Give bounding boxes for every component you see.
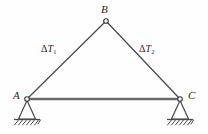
- support-a-ground-hatching: [15, 120, 41, 125]
- member-bc-right-diagonal: [107, 22, 180, 99]
- joint-c-circle: [178, 97, 183, 102]
- truss-diagram-svg: [0, 0, 208, 134]
- member-ab-left-diagonal: [28, 22, 106, 99]
- support-a-triangle: [19, 101, 36, 120]
- support-c-pin: [167, 101, 194, 126]
- support-a-pin: [14, 101, 41, 126]
- support-c-ground-hatching: [168, 120, 194, 125]
- joint-label-c: C: [188, 90, 195, 101]
- joint-b-circle: [104, 19, 109, 24]
- joint-label-a: A: [13, 90, 20, 101]
- joint-a-circle: [25, 97, 30, 102]
- support-c-triangle: [172, 101, 189, 120]
- joint-label-b: B: [101, 4, 108, 15]
- subscript-2: 2: [151, 48, 154, 55]
- subscript-1: 1: [53, 48, 56, 55]
- member-label-delta-t2: ΔT2: [139, 44, 154, 54]
- truss-figure: B A C ΔT1 ΔT2: [0, 0, 208, 134]
- member-label-delta-t1: ΔT1: [41, 44, 56, 54]
